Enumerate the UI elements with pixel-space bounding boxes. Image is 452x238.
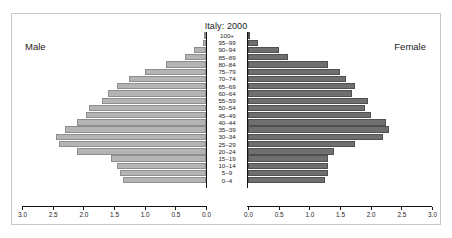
pyramid-row-female: [248, 169, 432, 176]
pyramid-row-male: [22, 126, 206, 133]
age-group-label: 75–79: [206, 68, 248, 75]
x-tick: [83, 207, 84, 210]
pyramid-row-female: [248, 119, 432, 126]
x-tick: [145, 207, 146, 210]
age-group-label: 80–84: [206, 61, 248, 68]
x-tick-label: 2.0: [367, 211, 376, 218]
bar-female: [248, 177, 325, 183]
x-tick: [340, 207, 341, 210]
pyramid-row-male: [22, 90, 206, 97]
pyramid-row-male: [22, 162, 206, 169]
x-tick-label: 3.0: [18, 211, 27, 218]
bar-male: [194, 47, 206, 53]
x-tick-label: 0.0: [202, 211, 211, 218]
pyramid-row-female: [248, 32, 432, 39]
pyramid-row-female: [248, 61, 432, 68]
center-axis-female: [247, 32, 248, 188]
age-group-labels: 100+95–9990–9485–8980–8475–7970–7465–696…: [206, 32, 248, 202]
age-group-label: 95–99: [206, 39, 248, 46]
pyramid-row-female: [248, 112, 432, 119]
age-group-label: 15–19: [206, 155, 248, 162]
bar-female: [248, 54, 288, 60]
bar-female: [248, 148, 334, 154]
age-group-label: 45–49: [206, 112, 248, 119]
pyramid-row-female: [248, 54, 432, 61]
bar-female: [248, 47, 279, 53]
age-group-label: 35–39: [206, 126, 248, 133]
pyramid-row-female: [248, 90, 432, 97]
pyramid-row-female: [248, 46, 432, 53]
x-tick: [248, 207, 249, 210]
bar-female: [248, 98, 368, 104]
bar-female: [248, 76, 346, 82]
age-group-label: 20–24: [206, 148, 248, 155]
x-tick: [175, 207, 176, 210]
bar-male: [185, 54, 206, 60]
x-tick-label: 1.5: [336, 211, 345, 218]
pyramid-row-male: [22, 39, 206, 46]
pyramid-row-female: [248, 68, 432, 75]
age-group-label: 25–29: [206, 141, 248, 148]
x-tick: [401, 207, 402, 210]
bar-female: [248, 170, 328, 176]
population-pyramid-figure: Italy: 2000 Male Female 100+95–9990–9485…: [11, 13, 441, 225]
bar-male: [117, 83, 206, 89]
bar-female: [248, 163, 328, 169]
pyramid-row-female: [248, 155, 432, 162]
pyramid-row-male: [22, 83, 206, 90]
x-tick-label: 1.0: [305, 211, 314, 218]
age-group-label: 60–64: [206, 90, 248, 97]
x-tick: [279, 207, 280, 210]
x-tick: [309, 207, 310, 210]
age-group-label: 65–69: [206, 83, 248, 90]
bar-female: [248, 119, 386, 125]
bar-male: [56, 134, 206, 140]
age-group-label: 70–74: [206, 75, 248, 82]
pyramid-row-female: [248, 177, 432, 184]
x-tick-label: 1.5: [110, 211, 119, 218]
bar-male: [108, 90, 206, 96]
pyramid-row-female: [248, 39, 432, 46]
age-group-label: 0–4: [206, 177, 248, 184]
pyramid-row-male: [22, 32, 206, 39]
pyramid-row-male: [22, 141, 206, 148]
pyramid-row-male: [22, 61, 206, 68]
pyramid-row-female: [248, 141, 432, 148]
male-bars-panel: [22, 32, 206, 202]
female-bars-panel: [248, 32, 432, 202]
pyramid-row-female: [248, 104, 432, 111]
x-tick: [114, 207, 115, 210]
bar-male: [145, 69, 206, 75]
age-group-label: 40–44: [206, 119, 248, 126]
bar-female: [248, 155, 328, 161]
pyramid-row-female: [248, 75, 432, 82]
pyramid-row-male: [22, 97, 206, 104]
bar-male: [117, 163, 206, 169]
pyramid-row-female: [248, 126, 432, 133]
x-axis-title: Population (in millions): [12, 222, 441, 225]
pyramid-row-female: [248, 83, 432, 90]
age-group-label: 30–34: [206, 133, 248, 140]
age-group-label: 100+: [206, 32, 248, 39]
bar-male: [111, 155, 206, 161]
chart-title: Italy: 2000: [12, 21, 440, 31]
pyramid-row-male: [22, 68, 206, 75]
bar-female: [248, 105, 365, 111]
x-tick: [53, 207, 54, 210]
plot-area: 100+95–9990–9485–8980–8475–7970–7465–696…: [12, 32, 441, 202]
pyramid-row-male: [22, 104, 206, 111]
x-tick-label: 2.5: [397, 211, 406, 218]
bar-female: [248, 83, 355, 89]
bar-female: [248, 126, 389, 132]
pyramid-row-female: [248, 133, 432, 140]
age-group-label: 90–94: [206, 46, 248, 53]
pyramid-row-male: [22, 177, 206, 184]
x-tick-label: 0.0: [244, 211, 253, 218]
pyramid-row-male: [22, 54, 206, 61]
x-tick-label: 3.0: [428, 211, 437, 218]
pyramid-row-female: [248, 148, 432, 155]
pyramid-row-male: [22, 155, 206, 162]
x-tick-label: 2.0: [79, 211, 88, 218]
bar-male: [129, 76, 206, 82]
bar-male: [123, 177, 206, 183]
